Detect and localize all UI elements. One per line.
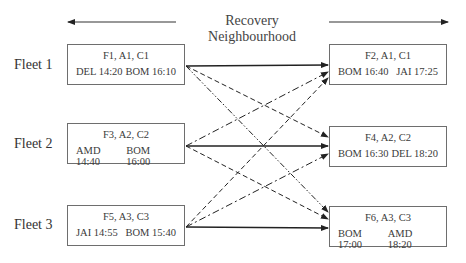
connection-f3-f2 (186, 72, 328, 146)
flight-box-f3[interactable]: F3, A2, C2 AMD 14:40 BOM 16:00 (67, 123, 185, 164)
connection-f5-f6 (186, 227, 328, 228)
arrival: BOM 16:10 (126, 66, 176, 77)
fleet-1-label: Fleet 1 (14, 57, 53, 73)
flight-box-f2[interactable]: F2, A1, C1 BOM 16:40 JAI 17:25 (329, 44, 447, 85)
flight-title: F1, A1, C1 (68, 50, 184, 61)
departure: BOM 16:30 (338, 148, 388, 159)
connection-f1-f4 (186, 66, 328, 137)
flight-box-f4[interactable]: F4, A2, C2 BOM 16:30 DEL 18:20 (329, 126, 447, 167)
flight-title: F4, A2, C2 (330, 132, 446, 143)
arrival: BOM 16:00 (126, 145, 176, 167)
departure: BOM 17:00 (338, 228, 388, 250)
arrival: BOM 15:40 (126, 227, 176, 238)
departure: AMD 14:40 (76, 145, 126, 167)
departure: BOM 16:40 (338, 66, 388, 77)
clipped-caption (0, 258, 300, 263)
fleet-2-label: Fleet 2 (14, 136, 53, 152)
arrival: AMD 18:20 (388, 228, 438, 250)
flight-title: F2, A1, C1 (330, 50, 446, 61)
flight-box-f5[interactable]: F5, A3, C3 JAI 14:55 BOM 15:40 (67, 205, 185, 246)
arrival: JAI 17:25 (396, 66, 438, 77)
connection-f3-f6 (186, 146, 328, 219)
recovery-neighbourhood-title: Recovery Neighbourhood (182, 13, 322, 45)
flight-title: F3, A2, C2 (68, 129, 184, 140)
connection-f5-f2 (186, 78, 328, 227)
arrival: DEL 18:20 (391, 148, 438, 159)
flight-title: F6, A3, C3 (330, 212, 446, 223)
connection-f1-f2 (186, 65, 328, 66)
departure: DEL 14:20 (76, 66, 123, 77)
flight-box-f1[interactable]: F1, A1, C1 DEL 14:20 BOM 16:10 (67, 44, 185, 85)
fleet-3-label: Fleet 3 (14, 217, 53, 233)
flight-box-f6[interactable]: F6, A3, C3 BOM 17:00 AMD 18:20 (329, 206, 447, 247)
departure: JAI 14:55 (76, 227, 118, 238)
flight-title: F5, A3, C3 (68, 211, 184, 222)
